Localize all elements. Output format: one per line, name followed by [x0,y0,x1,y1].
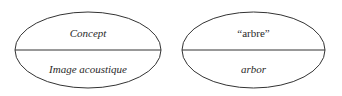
signifier-label: arbor [241,63,267,75]
signified-label: Concept [70,27,108,39]
sign-ellipse-right: “arbre” arbor [182,12,325,88]
saussure-sign-diagram: Concept Image acoustique “arbre” arbor [0,0,342,96]
sign-ellipse-left: Concept Image acoustique [15,12,161,88]
signified-label: “arbre” [237,27,269,39]
signifier-label: Image acoustique [48,63,127,75]
